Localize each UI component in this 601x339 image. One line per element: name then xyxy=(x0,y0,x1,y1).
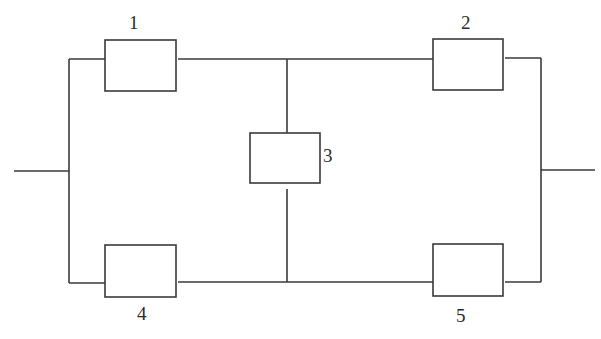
component-4-box xyxy=(105,245,176,297)
component-5-label: 5 xyxy=(456,305,466,326)
component-2-box xyxy=(433,39,503,90)
component-2-label: 2 xyxy=(461,12,471,33)
component-3-label: 3 xyxy=(323,145,333,166)
component-1-box xyxy=(105,40,176,91)
bridge-network-diagram: 1 2 3 4 5 xyxy=(0,0,601,339)
component-4-label: 4 xyxy=(137,303,147,324)
component-3-box xyxy=(250,133,320,183)
component-1-label: 1 xyxy=(129,12,139,33)
component-5-box xyxy=(433,244,503,296)
